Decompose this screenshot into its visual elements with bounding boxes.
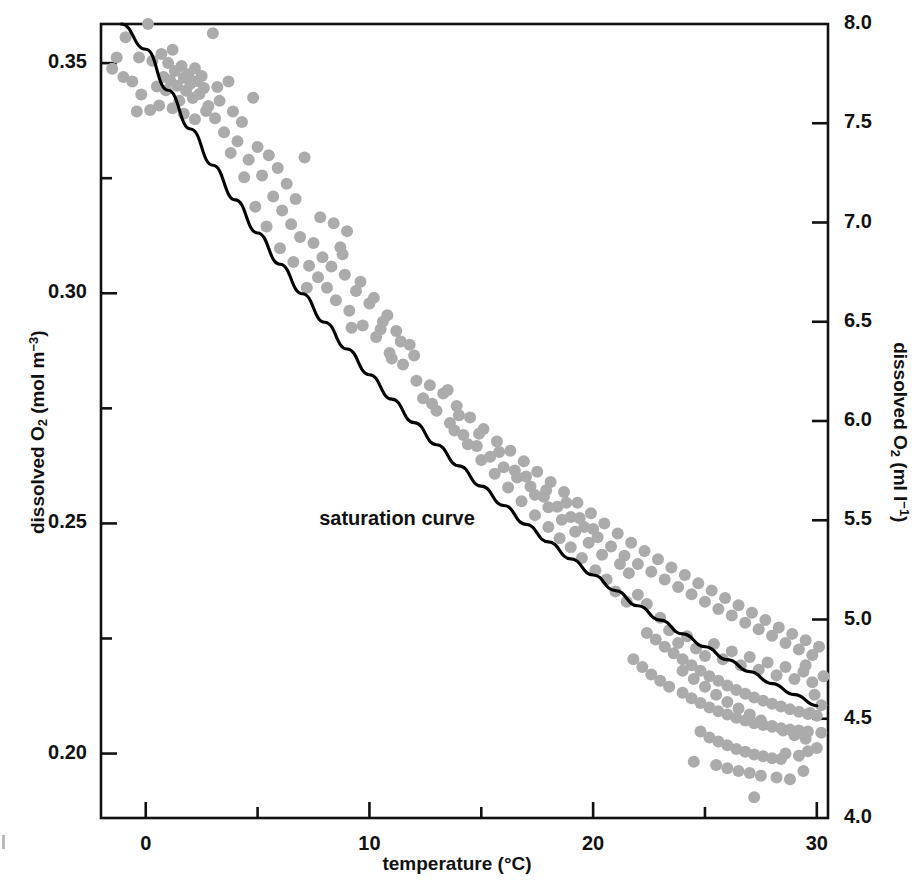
left-axis-ticks [101,63,117,753]
scatter-points [106,18,829,803]
right-axis-title-sub: 2 [888,450,903,457]
x-axis-title: temperature (°C) [0,853,914,875]
right-axis-title-pre: dissolved O [890,342,911,450]
left-axis-title: dissolved O2 (mol m−3) [26,302,51,562]
left-axis-title-mid: (mol m [27,352,48,420]
right-axis-title-sup: −1 [897,501,912,516]
tick-label: 0.30 [0,280,87,303]
saturation-curve-line [121,24,817,706]
plot-canvas [0,0,914,887]
tick-label: 7.5 [844,110,872,133]
tick-label: 0.20 [0,741,87,764]
scan-artifact-mark [2,835,5,849]
right-axis-ticks [812,123,828,719]
tick-label: 4.5 [844,706,872,729]
left-axis-title-sup: −3 [26,337,41,352]
tick-label: 0.35 [0,50,87,73]
left-axis-title-post: ) [27,331,48,337]
tick-label: 6.0 [844,408,872,431]
tick-label: 5.5 [844,507,872,530]
right-axis-title-mid: (ml l [890,457,911,501]
left-axis-title-sub: 2 [35,419,50,426]
tick-label: 7.0 [844,210,872,233]
figure-scatter-dissolved-oxygen: 0.200.250.300.35 4.04.55.05.56.06.57.07.… [0,0,914,887]
right-axis-title-post: ) [890,516,911,522]
tick-label: 6.5 [844,309,872,332]
tick-label: 20 [533,832,653,855]
tick-label: 4.0 [844,805,872,828]
tick-label: 10 [309,832,429,855]
right-axis-title: dissolved O2 (ml l−1) [888,302,913,562]
saturation-curve-annotation: saturation curve [319,507,475,530]
tick-label: 30 [757,832,877,855]
tick-label: 0 [86,832,206,855]
tick-label: 8.0 [844,11,872,34]
bottom-axis-ticks [146,802,817,818]
tick-label: 5.0 [844,607,872,630]
left-axis-title-pre: dissolved O [27,426,48,534]
